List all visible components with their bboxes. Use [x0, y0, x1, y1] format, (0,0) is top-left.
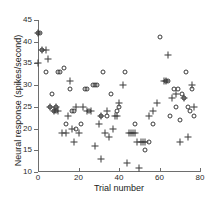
data-point-plus — [184, 134, 191, 141]
y-tick-label: 45 — [23, 16, 32, 24]
data-point-plus — [35, 30, 42, 37]
data-point-plus — [43, 47, 50, 54]
y-tick-label: 20 — [23, 125, 32, 133]
data-point-circle — [100, 70, 105, 75]
data-point-circle — [50, 91, 55, 96]
x-tick — [79, 168, 80, 172]
y-axis-line — [38, 20, 39, 172]
data-point-circle — [94, 83, 99, 88]
data-point-plus — [150, 108, 157, 115]
data-point-plus — [132, 129, 139, 136]
data-point-plus — [105, 134, 112, 141]
y-tick — [34, 129, 38, 130]
x-tick-label: 60 — [155, 174, 164, 182]
data-point-plus — [116, 99, 123, 106]
data-point-circle — [191, 113, 196, 118]
data-point-plus — [103, 108, 110, 115]
data-point-circle — [167, 113, 172, 118]
data-point-plus — [154, 99, 161, 106]
data-point-circle — [108, 91, 113, 96]
y-tick — [34, 107, 38, 108]
y-axis-label: Neural response (spikes/second) — [14, 21, 23, 181]
y-tick — [34, 150, 38, 151]
data-point-plus — [97, 155, 104, 162]
scatter-plot-figure: 1015202530354045 020406080 Trial number … — [0, 0, 220, 203]
data-point-plus — [120, 82, 127, 89]
y-tick-label: 35 — [23, 59, 32, 67]
y-tick — [34, 85, 38, 86]
x-axis-label: Trial number — [38, 184, 200, 193]
data-point-circle — [68, 87, 73, 92]
data-point-plus — [95, 121, 102, 128]
data-point-plus — [190, 103, 197, 110]
data-point-plus — [188, 82, 195, 89]
x-tick — [38, 168, 39, 172]
data-point-plus — [176, 138, 183, 145]
data-point-plus — [65, 112, 72, 119]
data-point-circle — [44, 70, 49, 75]
data-point-circle — [133, 122, 138, 127]
data-point-circle — [183, 70, 188, 75]
data-point-plus — [55, 108, 62, 115]
x-tick-label: 0 — [36, 174, 40, 182]
x-tick — [200, 168, 201, 172]
y-tick-label: 30 — [23, 81, 32, 89]
data-point-circle — [151, 122, 156, 127]
data-point-plus — [172, 90, 179, 97]
data-point-plus — [35, 60, 42, 67]
y-tick-label: 15 — [23, 146, 32, 154]
data-point-circle — [123, 70, 128, 75]
data-point-plus — [109, 125, 116, 132]
y-tick — [34, 42, 38, 43]
data-point-circle — [143, 148, 148, 153]
data-point-plus — [87, 108, 94, 115]
data-point-circle — [62, 65, 67, 70]
data-point-circle — [84, 87, 89, 92]
y-tick — [34, 20, 38, 21]
data-point-plus — [75, 129, 82, 136]
x-tick-label: 80 — [196, 174, 205, 182]
data-point-circle — [78, 122, 83, 127]
data-point-plus — [71, 138, 78, 145]
data-point-plus — [136, 164, 143, 171]
y-tick-label: 10 — [23, 168, 32, 176]
data-point-plus — [164, 51, 171, 58]
data-point-plus — [162, 77, 169, 84]
data-point-plus — [45, 56, 52, 63]
y-tick-label: 25 — [23, 103, 32, 111]
plot-area: 1015202530354045 020406080 — [38, 20, 200, 172]
data-point-circle — [173, 104, 178, 109]
data-point-plus — [124, 160, 131, 167]
data-point-plus — [180, 95, 187, 102]
x-tick — [119, 168, 120, 172]
data-point-circle — [58, 70, 63, 75]
data-point-circle — [177, 117, 182, 122]
data-point-plus — [67, 77, 74, 84]
x-tick-label: 40 — [115, 174, 124, 182]
y-tick-label: 40 — [23, 38, 32, 46]
data-point-plus — [142, 138, 149, 145]
x-tick-label: 20 — [74, 174, 83, 182]
data-point-plus — [113, 112, 120, 119]
data-point-circle — [157, 35, 162, 40]
x-tick — [160, 168, 161, 172]
data-point-plus — [91, 142, 98, 149]
